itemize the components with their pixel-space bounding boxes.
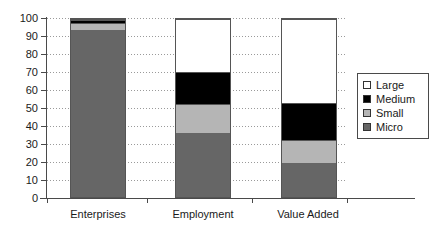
segment-small bbox=[282, 140, 336, 163]
x-tick-0 bbox=[47, 198, 48, 203]
bar-enterprises[interactable] bbox=[70, 18, 126, 198]
x-axis-label-enterprises: Enterprises bbox=[38, 208, 158, 220]
legend-label: Micro bbox=[376, 121, 403, 133]
legend-label: Small bbox=[376, 107, 404, 119]
y-axis-label-10: 10 bbox=[8, 175, 38, 186]
y-axis-label-60: 60 bbox=[8, 85, 38, 96]
legend-swatch-small-icon bbox=[363, 109, 371, 117]
legend-swatch-medium-icon bbox=[363, 95, 371, 103]
y-axis-label-0: 0 bbox=[8, 193, 38, 204]
plot-area bbox=[47, 18, 347, 198]
legend-item-micro[interactable]: Micro bbox=[363, 120, 423, 134]
legend-label: Large bbox=[376, 79, 404, 91]
segment-micro bbox=[176, 133, 230, 197]
y-axis-label-30: 30 bbox=[8, 139, 38, 150]
y-axis-label-20: 20 bbox=[8, 157, 38, 168]
bar-employment[interactable] bbox=[175, 18, 231, 198]
segment-micro bbox=[71, 30, 125, 197]
legend-swatch-large-icon bbox=[363, 81, 371, 89]
y-axis-label-50: 50 bbox=[8, 103, 38, 114]
x-axis-label-value-added: Value Added bbox=[248, 208, 368, 220]
y-axis-label-70: 70 bbox=[8, 67, 38, 78]
legend-item-large[interactable]: Large bbox=[363, 78, 423, 92]
legend-item-medium[interactable]: Medium bbox=[363, 92, 423, 106]
x-axis-label-employment: Employment bbox=[143, 208, 263, 220]
legend-item-small[interactable]: Small bbox=[363, 106, 423, 120]
segment-medium bbox=[176, 72, 230, 104]
segment-large bbox=[176, 19, 230, 72]
x-tick-1 bbox=[147, 198, 148, 203]
y-axis-label-80: 80 bbox=[8, 49, 38, 60]
segment-small bbox=[71, 23, 125, 30]
stacked-bar-chart: 100 90 80 70 60 50 40 30 20 10 0 bbox=[0, 0, 442, 234]
chart-legend: Large Medium Small Micro bbox=[357, 73, 429, 139]
x-tick-3 bbox=[347, 198, 348, 203]
x-tick-2 bbox=[252, 198, 253, 203]
segment-micro bbox=[282, 163, 336, 197]
legend-swatch-micro-icon bbox=[363, 123, 371, 131]
segment-small bbox=[176, 104, 230, 132]
legend-label: Medium bbox=[376, 93, 415, 105]
y-axis-label-100: 100 bbox=[8, 13, 38, 24]
x-axis-line bbox=[40, 198, 415, 199]
y-axis-label-90: 90 bbox=[8, 31, 38, 42]
bar-value-added[interactable] bbox=[281, 18, 337, 198]
y-axis-label-40: 40 bbox=[8, 121, 38, 132]
segment-large bbox=[282, 19, 336, 103]
segment-medium bbox=[282, 103, 336, 140]
